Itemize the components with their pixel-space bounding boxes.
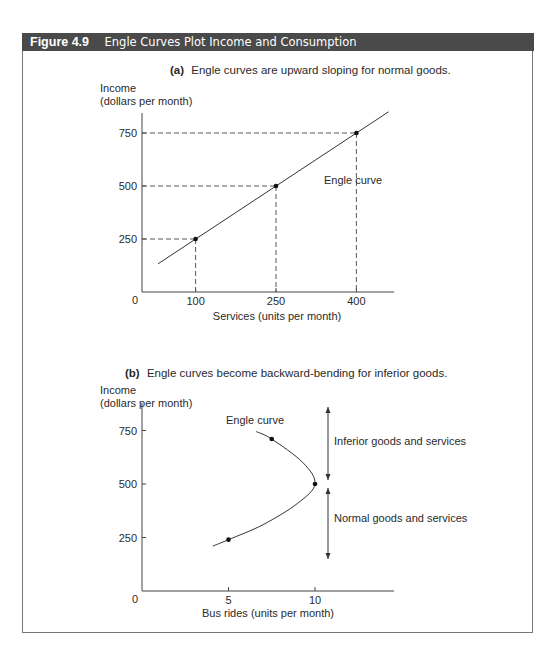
engle-curve-path: [213, 432, 315, 546]
arrow-up-icon: [326, 407, 331, 413]
chart-b-xlabel: Bus rides (units per month): [202, 607, 334, 619]
chart-b: (b) Engle curves become backward-bending…: [100, 367, 468, 619]
range-label: Normal goods and services: [334, 512, 468, 524]
chart-b-ylabel-line1: Income: [100, 384, 136, 396]
x-tick-label: 100: [186, 295, 204, 307]
y-tick-label: 250: [119, 233, 137, 245]
chart-a-xlabel: Services (units per month): [213, 310, 341, 322]
x-tick-label: 5: [225, 594, 231, 606]
arrow-down-icon: [326, 474, 331, 480]
data-point: [269, 437, 274, 442]
data-point: [193, 237, 198, 242]
figure-canvas: (a) Engle curves are upward sloping for …: [0, 0, 550, 659]
chart-b-origin: 0: [132, 593, 138, 605]
chart-b-ylabel-line2: (dollars per month): [100, 397, 192, 409]
chart-b-title-text: Engle curves become backward-bending for…: [147, 367, 447, 379]
chart-a-origin: 0: [132, 294, 138, 306]
chart-a: (a) Engle curves are upward sloping for …: [100, 64, 451, 322]
curve-label: Engle curve: [226, 414, 284, 426]
chart-a-title-text: Engle curves are upward sloping for norm…: [191, 64, 451, 76]
data-point: [313, 482, 318, 487]
chart-a-title: (a) Engle curves are upward sloping for …: [170, 64, 451, 76]
data-point: [226, 537, 231, 542]
data-point: [354, 131, 359, 136]
curve-label: Engle curve: [324, 174, 382, 186]
x-tick-label: 400: [347, 295, 365, 307]
y-tick-label: 500: [119, 478, 137, 490]
range-label: Inferior goods and services: [334, 435, 467, 447]
chart-a-ylabel-line1: Income: [100, 82, 136, 94]
chart-b-title: (b) Engle curves become backward-bending…: [125, 367, 447, 379]
chart-a-panel-label: (a): [170, 64, 184, 76]
x-tick-label: 250: [267, 295, 285, 307]
chart-b-panel-label: (b): [125, 367, 140, 379]
arrow-up-icon: [326, 488, 331, 494]
y-tick-label: 500: [119, 180, 137, 192]
chart-a-ylabel-line2: (dollars per month): [100, 95, 192, 107]
y-tick-label: 250: [119, 532, 137, 544]
y-tick-label: 750: [119, 425, 137, 437]
arrow-down-icon: [326, 553, 331, 559]
x-tick-label: 10: [309, 594, 321, 606]
y-tick-label: 750: [119, 127, 137, 139]
data-point: [274, 184, 279, 189]
engle-curve-line: [158, 112, 388, 264]
